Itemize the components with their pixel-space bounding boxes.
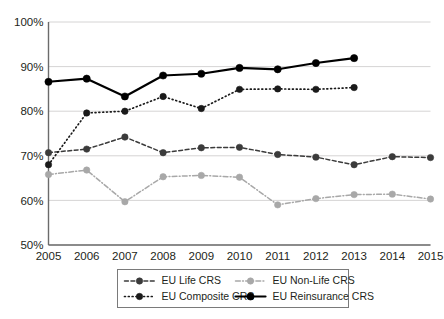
data-point xyxy=(351,191,357,197)
data-point xyxy=(236,64,243,71)
data-point xyxy=(198,172,204,178)
data-point xyxy=(45,171,51,177)
data-point xyxy=(236,86,242,92)
data-point xyxy=(83,75,90,82)
data-point xyxy=(160,174,166,180)
data-point xyxy=(198,70,205,77)
x-axis-tick-labels: 2005200620072008200920102011201220132014… xyxy=(36,250,444,262)
data-point xyxy=(313,195,319,201)
y-tick-label: 70% xyxy=(20,150,43,162)
legend-marker-icon xyxy=(247,293,254,300)
data-point xyxy=(84,146,90,152)
data-point xyxy=(122,108,128,114)
data-point xyxy=(275,202,281,208)
data-point xyxy=(351,84,357,90)
chart-container: 50%60%70%80%90%100% 20052006200720082009… xyxy=(0,0,444,319)
data-point xyxy=(45,149,51,155)
y-tick-label: 80% xyxy=(20,105,43,117)
legend-label: EU Life CRS xyxy=(162,274,222,286)
data-point xyxy=(275,86,281,92)
data-point xyxy=(313,86,319,92)
data-point xyxy=(84,110,90,116)
x-tick-label-2006: 2006 xyxy=(74,250,100,262)
x-tick-label-2011: 2011 xyxy=(265,250,290,262)
data-point xyxy=(389,191,395,197)
data-point xyxy=(198,145,204,151)
x-tick-label-2015: 2015 xyxy=(418,250,444,262)
legend-label: EU Non-Life CRS xyxy=(273,274,355,286)
x-tick-label-2013: 2013 xyxy=(341,250,367,262)
data-point xyxy=(84,167,90,173)
y-tick-label: 60% xyxy=(20,195,43,207)
x-tick-label-2008: 2008 xyxy=(150,250,176,262)
data-point xyxy=(427,196,433,202)
x-tick-label-2010: 2010 xyxy=(227,250,253,262)
y-tick-label: 100% xyxy=(14,16,43,28)
data-point xyxy=(160,72,167,79)
legend-marker-icon xyxy=(136,293,142,299)
data-point xyxy=(121,93,128,100)
legend-marker-icon xyxy=(247,278,253,284)
x-tick-label-2014: 2014 xyxy=(380,250,406,262)
data-point xyxy=(198,105,204,111)
chart-legend: EU Life CRSEU Non-Life CRSEU Composite C… xyxy=(118,270,375,308)
data-point xyxy=(160,93,166,99)
data-point xyxy=(275,151,281,157)
data-point xyxy=(236,144,242,150)
data-point xyxy=(427,154,433,160)
data-point xyxy=(45,78,52,85)
data-point xyxy=(312,59,319,66)
legend-label: EU Reinsurance CRS xyxy=(273,290,375,302)
data-point xyxy=(351,162,357,168)
data-point xyxy=(389,153,395,159)
data-point xyxy=(313,154,319,160)
line-chart: 50%60%70%80%90%100% 20052006200720082009… xyxy=(0,0,444,319)
data-point xyxy=(274,66,281,73)
data-point xyxy=(160,149,166,155)
x-tick-label-2005: 2005 xyxy=(36,250,62,262)
legend-marker-icon xyxy=(136,278,142,284)
data-point xyxy=(122,199,128,205)
data-point xyxy=(45,162,51,168)
data-point xyxy=(122,134,128,140)
x-tick-label-2007: 2007 xyxy=(112,250,138,262)
y-tick-label: 90% xyxy=(20,61,43,73)
data-point xyxy=(351,55,358,62)
x-tick-label-2012: 2012 xyxy=(303,250,329,262)
x-tick-label-2009: 2009 xyxy=(189,250,215,262)
data-point xyxy=(236,174,242,180)
